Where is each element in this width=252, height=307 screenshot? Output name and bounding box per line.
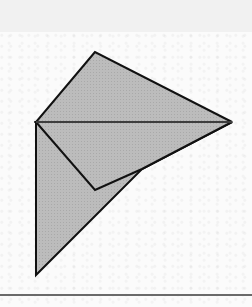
folded-triangle-figure <box>0 0 252 307</box>
upper-triangle <box>36 52 232 122</box>
diagram-page <box>0 0 252 307</box>
bottom-rule <box>0 294 252 296</box>
